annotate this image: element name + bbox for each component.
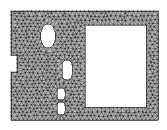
middle-slot-hole-fill [62, 60, 72, 80]
rectangular-cutout-fill [85, 25, 146, 107]
lower-slot-hole-upper-fill [57, 88, 65, 100]
mesh-figure: Unstructured triangular mesh of a rectan… [0, 0, 167, 130]
lower-slot-hole-lower-fill [57, 102, 65, 115]
mesh-canvas [0, 0, 167, 130]
